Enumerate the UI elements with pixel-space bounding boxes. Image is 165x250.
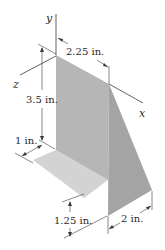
arrowhead-icon xyxy=(37,145,42,149)
z-axis xyxy=(20,56,56,75)
dim-height: 3.5 in. xyxy=(26,94,58,105)
extension-line xyxy=(62,194,84,202)
arrowhead-icon xyxy=(58,38,63,42)
arrowhead-icon xyxy=(40,136,44,141)
arrowhead-icon xyxy=(146,206,151,210)
arrowhead-icon xyxy=(103,63,108,67)
arrowhead-icon xyxy=(22,152,27,156)
fin-plate xyxy=(108,84,152,216)
extension-line xyxy=(38,44,56,54)
dim-base-depth: 1 in. xyxy=(15,135,37,146)
arrowhead-icon xyxy=(68,201,72,206)
dim-lower-height: 1.25 in. xyxy=(54,215,92,226)
z-axis-label: z xyxy=(12,78,19,91)
plate-diagram: y x z 2.25 in. 3.5 in. 1 in. xyxy=(0,0,165,250)
arrowhead-icon xyxy=(109,225,114,229)
x-axis-label: x xyxy=(139,107,146,120)
extension-line xyxy=(39,140,55,149)
dim-top-width: 2.25 in. xyxy=(66,46,104,57)
arrowhead-icon xyxy=(40,47,44,52)
dim-fin-depth: 2 in. xyxy=(121,213,143,224)
y-axis-label: y xyxy=(45,12,53,25)
